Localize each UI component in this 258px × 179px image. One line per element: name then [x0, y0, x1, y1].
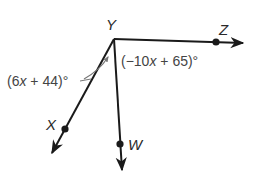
ray-yz [114, 39, 243, 43]
angle-diagram: Y Z X W (6x + 44)° (−10x + 65)° [0, 0, 258, 179]
label-x: X [45, 116, 57, 133]
label-y: Y [106, 16, 117, 33]
point-x [61, 125, 68, 132]
angle-label-wyz: (−10x + 65)° [121, 53, 198, 69]
angle-label-leader [80, 79, 91, 81]
label-w: W [128, 136, 144, 153]
point-w [116, 140, 123, 147]
ray-yx [52, 39, 114, 153]
label-z: Z [218, 21, 229, 38]
point-z [212, 38, 219, 45]
angle-arc-xyw [84, 57, 108, 79]
angle-label-xyw: (6x + 44)° [7, 73, 68, 89]
